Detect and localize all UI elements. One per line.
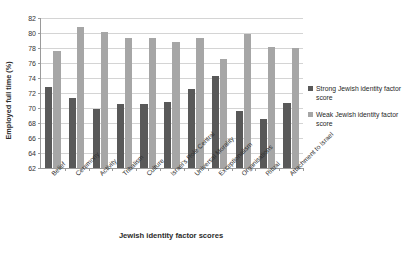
y-axis-tick-label: 78 xyxy=(28,45,36,52)
bar xyxy=(172,42,179,168)
bar xyxy=(283,103,290,168)
x-axis-tick-mark xyxy=(160,168,161,171)
bar xyxy=(149,38,156,169)
bar xyxy=(125,38,132,169)
bar xyxy=(292,48,299,168)
y-axis-tick-mark xyxy=(38,138,41,139)
bar-chart: Employed full time (%) 62646668707274767… xyxy=(0,0,406,256)
x-axis-tick-mark xyxy=(255,168,256,171)
x-axis-tick-mark xyxy=(89,168,90,171)
bar xyxy=(101,32,108,169)
y-axis-tick-label: 74 xyxy=(28,75,36,82)
y-axis-tick-label: 62 xyxy=(28,165,36,172)
bar-group xyxy=(160,18,184,168)
x-axis-tick-mark xyxy=(184,168,185,171)
y-axis-tick-mark xyxy=(38,108,41,109)
y-axis-tick-mark xyxy=(38,18,41,19)
y-axis-tick-label: 76 xyxy=(28,60,36,67)
x-axis-tick-mark xyxy=(65,168,66,171)
y-axis-tick-label: 82 xyxy=(28,15,36,22)
x-axis-title: Jewish identity factor scores xyxy=(40,231,302,240)
bar-group xyxy=(279,18,303,168)
y-axis-tick-label: 64 xyxy=(28,150,36,157)
bar xyxy=(53,51,60,168)
legend-swatch-icon xyxy=(308,86,313,91)
bar xyxy=(69,98,76,168)
x-axis-tick-mark xyxy=(232,168,233,171)
y-axis-tick-labels: 6264666870727476788082 xyxy=(16,18,38,168)
bars-layer xyxy=(41,18,303,168)
bar-group xyxy=(112,18,136,168)
y-axis-tick-label: 68 xyxy=(28,120,36,127)
x-axis-tick-mark xyxy=(208,168,209,171)
bar-group xyxy=(89,18,113,168)
legend-label: Weak Jewish identity factor score xyxy=(316,110,404,128)
x-axis-tick-mark xyxy=(136,168,137,171)
bar xyxy=(45,87,52,168)
y-axis-tick-label: 72 xyxy=(28,90,36,97)
legend-label: Strong Jewish identity factor score xyxy=(316,84,404,102)
y-axis-tick-mark xyxy=(38,168,41,169)
bar xyxy=(117,104,124,168)
x-axis-tick-mark xyxy=(279,168,280,171)
y-axis-tick-mark xyxy=(38,33,41,34)
y-axis-tick-mark xyxy=(38,63,41,64)
bar xyxy=(164,102,171,168)
legend-entry: Strong Jewish identity factor score xyxy=(308,84,404,102)
bar-group xyxy=(41,18,65,168)
bar-group xyxy=(65,18,89,168)
y-axis-tick-label: 70 xyxy=(28,105,36,112)
bar-group xyxy=(136,18,160,168)
chart-legend: Strong Jewish identity factor scoreWeak … xyxy=(308,84,404,136)
x-axis-tick-mark xyxy=(303,168,304,171)
y-axis-tick-mark xyxy=(38,123,41,124)
legend-swatch-icon xyxy=(308,112,313,117)
legend-entry: Weak Jewish identity factor score xyxy=(308,110,404,128)
y-axis-tick-mark xyxy=(38,153,41,154)
y-axis-tick-mark xyxy=(38,93,41,94)
plot-area xyxy=(40,18,303,169)
y-axis-tick-label: 80 xyxy=(28,30,36,37)
x-axis-tick-labels: BeliefCeremonyActivityTribalismCultureIs… xyxy=(40,172,302,228)
y-axis-title-text: Employed full time (%) xyxy=(4,61,13,139)
x-axis-tick-mark xyxy=(112,168,113,171)
y-axis-title: Employed full time (%) xyxy=(0,0,16,200)
y-axis-tick-mark xyxy=(38,48,41,49)
y-axis-tick-mark xyxy=(38,78,41,79)
y-axis-tick-label: 66 xyxy=(28,135,36,142)
bar xyxy=(77,27,84,168)
